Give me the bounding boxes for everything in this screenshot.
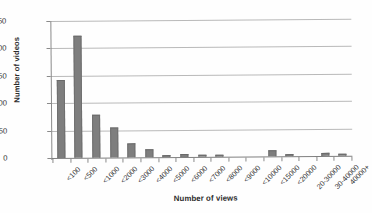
y-axis-tick-label: 50 (0, 126, 7, 135)
x-axis-tick-labels: <100<500<1000<2000<3000<4000<5000<6000<7… (0, 159, 362, 198)
x-axis-title: Number of views (57, 193, 355, 204)
y-axis-tick-label: 150 (0, 71, 7, 80)
bar (180, 154, 188, 157)
bar (198, 155, 206, 157)
y-axis-title: Number of videos (12, 22, 22, 118)
bar (127, 143, 135, 157)
bar (268, 150, 276, 156)
x-axis-tick-label: <2000 (118, 164, 139, 185)
bar (338, 154, 346, 156)
x-axis-tick-label: <7000 (206, 164, 227, 185)
x-axis-tick-label: <500 (82, 165, 100, 183)
bar (162, 155, 170, 157)
y-axis-tick-label: 250 (0, 16, 6, 25)
x-axis-tick-label: <5000 (171, 164, 192, 185)
x-axis-tick-label: <6000 (188, 164, 209, 185)
y-axis-tick-labels: 050100150200250 (0, 0, 361, 1)
y-axis-tick-label: 100 (0, 98, 7, 107)
bar (285, 155, 293, 157)
bar (145, 149, 153, 157)
x-axis-tick-label: <8000 (224, 164, 245, 185)
bar (92, 115, 100, 158)
bar-series (51, 19, 352, 158)
plot-area (50, 19, 352, 159)
x-axis-tick-label: <9000 (241, 163, 262, 184)
x-axis-tick-label: <4000 (153, 164, 174, 185)
x-axis-tick-label: <100 (64, 165, 82, 183)
bar (321, 153, 329, 156)
bar (110, 128, 118, 158)
x-axis-tick-label: <1000 (101, 165, 122, 186)
bar (73, 36, 82, 158)
y-axis-tick-label: 200 (0, 43, 7, 52)
x-axis-tick-label: <3000 (136, 164, 157, 185)
bar (215, 155, 223, 157)
bar (57, 80, 66, 158)
bar-chart: Number of videos 050100150200250 <100<50… (0, 0, 363, 213)
